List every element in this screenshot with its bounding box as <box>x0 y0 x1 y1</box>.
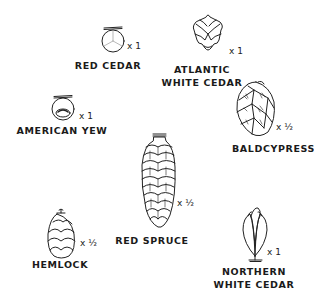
hemlock-cone-icon <box>45 208 79 260</box>
red-cedar-scale: x 1 <box>127 41 141 51</box>
baldcypress-label: BALDCYPRESS <box>232 142 302 155</box>
atlantic-white-cedar-cone-icon <box>190 12 226 60</box>
atlantic-white-cedar-label: ATLANTIC WHITE CEDAR <box>160 63 244 89</box>
baldcypress-scale: x ½ <box>276 122 293 132</box>
red-spruce-cone-icon <box>140 133 178 231</box>
red-cedar-label: RED CEDAR <box>72 59 144 72</box>
northern-white-cedar-scale: x 1 <box>267 247 281 257</box>
northern-white-cedar-label: NORTHERN WHITE CEDAR <box>212 265 296 291</box>
red-spruce-scale: x ½ <box>177 198 194 208</box>
baldcypress-cone-icon <box>234 78 278 140</box>
atlantic-white-cedar-scale: x 1 <box>229 46 243 56</box>
hemlock-scale: x ½ <box>80 238 97 248</box>
red-spruce-label: RED SPRUCE <box>114 234 190 247</box>
hemlock-label: HEMLOCK <box>28 258 92 271</box>
red-cedar-cone-icon <box>100 27 126 54</box>
american-yew-scale: x 1 <box>79 111 93 121</box>
northern-white-cedar-cone-icon <box>240 206 272 266</box>
american-yew-label: AMERICAN YEW <box>14 124 110 137</box>
american-yew-aril-icon <box>50 95 78 123</box>
